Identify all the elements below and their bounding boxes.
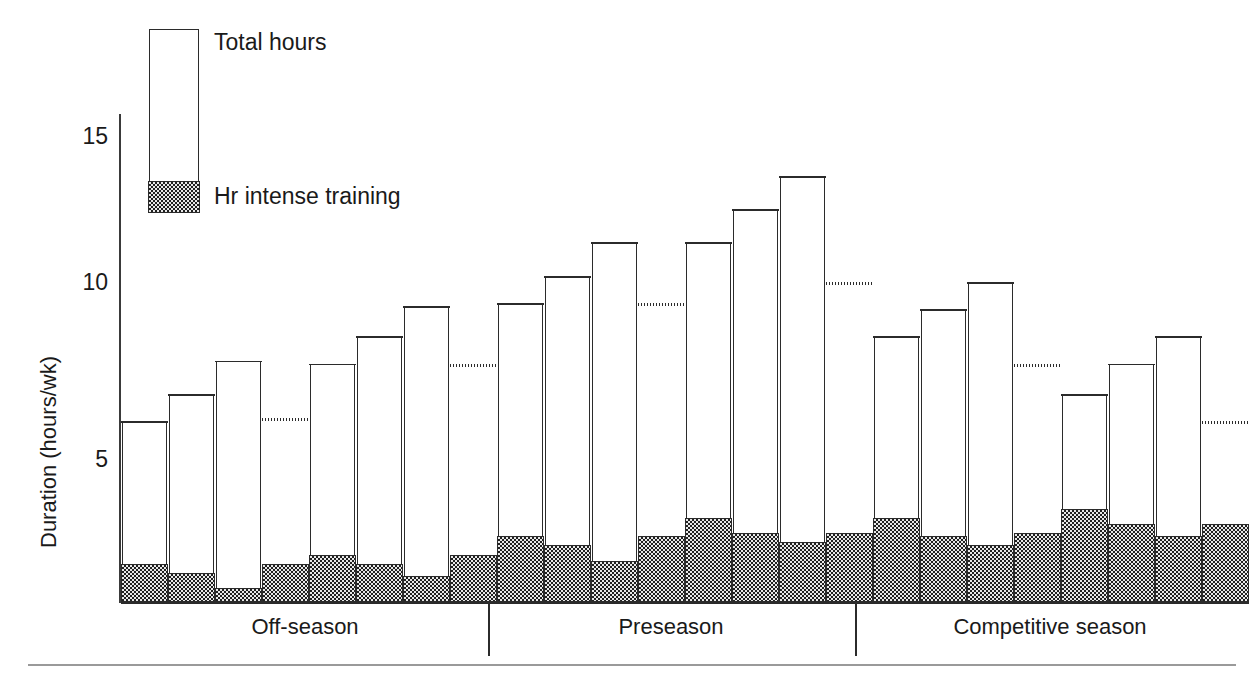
bar-3: [216, 361, 261, 603]
bar-intense-segment: [121, 564, 167, 603]
x-axis-baseline: [121, 601, 1249, 604]
bar-12: [639, 303, 684, 603]
bar-22: [1109, 364, 1154, 603]
chart-root: Duration (hours/wk) 15 10 5 Total hours …: [0, 0, 1256, 674]
bar-14: [733, 209, 778, 603]
bar-intense-segment: [685, 518, 731, 603]
bar-2: [169, 394, 214, 603]
bar-top-solid: [967, 282, 1013, 284]
bar-24: [1203, 421, 1248, 603]
bar-top-solid: [779, 176, 825, 178]
bar-17: [874, 336, 919, 603]
legend-label-total-hours: Total hours: [214, 29, 327, 56]
bar-top-solid: [403, 306, 449, 308]
bar-intense-segment: [826, 533, 872, 603]
bar-top-solid: [873, 336, 919, 338]
bar-intense-segment: [591, 561, 637, 603]
bar-intense-segment: [873, 518, 919, 603]
bar-8: [451, 364, 496, 603]
bar-top-dotted: [638, 303, 684, 306]
bar-intense-segment: [450, 555, 496, 603]
bars-layer: [121, 100, 1248, 603]
bar-intense-segment: [309, 555, 355, 603]
bar-intense-segment: [779, 542, 825, 603]
bar-1: [122, 421, 167, 603]
y-tick-label-5: 5: [48, 448, 108, 471]
bar-11: [592, 242, 637, 603]
bar-5: [310, 364, 355, 603]
season-label-off-season: Off-season: [205, 614, 405, 640]
bar-top-dotted: [1014, 364, 1060, 367]
bar-top-solid: [591, 242, 637, 244]
bar-top-solid: [1155, 336, 1201, 338]
bar-top-solid: [1061, 394, 1107, 396]
bar-intense-segment: [1014, 533, 1060, 603]
bar-23: [1156, 336, 1201, 603]
bar-top-solid: [215, 361, 261, 363]
bar-intense-segment: [638, 536, 684, 603]
y-tick-label-15: 15: [48, 125, 108, 148]
bar-top-solid: [1108, 364, 1154, 366]
bar-top-dotted: [450, 364, 496, 367]
bar-intense-segment: [356, 564, 402, 603]
bar-intense-segment: [967, 545, 1013, 603]
bar-top-solid: [732, 209, 778, 211]
bar-top-dotted: [826, 282, 872, 285]
bar-intense-segment: [1155, 536, 1201, 603]
bar-top-solid: [497, 303, 543, 305]
bar-top-solid: [168, 394, 214, 396]
season-label-competitive: Competitive season: [920, 614, 1180, 640]
bar-top-solid: [356, 336, 402, 338]
bar-top-dotted: [262, 418, 308, 421]
bar-top-solid: [685, 242, 731, 244]
bar-intense-segment: [1108, 524, 1154, 603]
bar-intense-segment: [1061, 509, 1107, 603]
bar-top-solid: [544, 276, 590, 278]
bar-intense-segment: [1202, 524, 1248, 603]
bar-intense-segment: [732, 533, 778, 603]
season-divider-1: [488, 603, 490, 656]
bar-15: [780, 176, 825, 603]
bar-top-solid: [920, 309, 966, 311]
bar-intense-segment: [262, 564, 308, 603]
bar-intense-segment: [497, 536, 543, 603]
season-divider-2: [855, 603, 857, 656]
bar-intense-segment: [920, 536, 966, 603]
bar-10: [545, 276, 590, 603]
bar-top-solid: [121, 421, 167, 423]
bar-13: [686, 242, 731, 603]
bar-16: [827, 282, 872, 603]
bottom-rule: [28, 664, 1236, 666]
bar-19: [968, 282, 1013, 603]
y-tick-label-10: 10: [48, 271, 108, 294]
bar-20: [1015, 364, 1060, 603]
bar-top-dotted: [1202, 421, 1248, 424]
season-label-preseason: Preseason: [571, 614, 771, 640]
bar-intense-segment: [168, 573, 214, 603]
bar-intense-segment: [544, 545, 590, 603]
bar-7: [404, 306, 449, 603]
bar-intense-segment: [403, 576, 449, 603]
bar-top-solid: [309, 364, 355, 366]
bar-21: [1062, 394, 1107, 603]
bar-6: [357, 336, 402, 603]
bar-18: [921, 309, 966, 603]
bar-9: [498, 303, 543, 603]
bar-4: [263, 418, 308, 603]
